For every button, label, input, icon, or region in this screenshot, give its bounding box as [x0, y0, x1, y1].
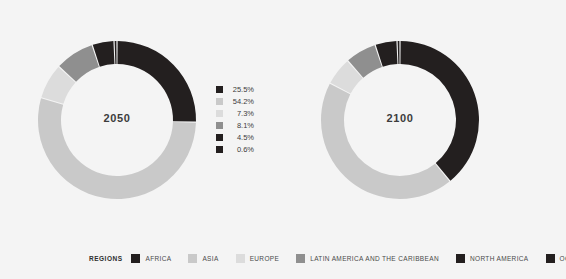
- swatch-oceania: [216, 146, 223, 153]
- donut-chart-2100: 2100 39.1% 43.6% 5.8% 6.4% 4.5%: [283, 0, 566, 240]
- value-oceania: 0.6%: [228, 144, 254, 155]
- charts-area: 2050 25.5% 54.2% 7.3% 8.1% 4.5%: [0, 0, 566, 240]
- region-legend-item-africa[interactable]: AFRICA: [131, 254, 171, 263]
- region-swatch-icon: [188, 254, 197, 263]
- donut-2050-year-label: 2050: [35, 112, 199, 124]
- region-swatch-icon: [236, 254, 245, 263]
- swatch-europe: [216, 110, 223, 117]
- region-legend-label: AFRICA: [145, 255, 171, 262]
- value-row: 7.3%: [216, 108, 254, 119]
- swatch-north-america: [216, 134, 223, 141]
- region-legend-item-latin-america-and-the-caribbean[interactable]: LATIN AMERICA AND THE CARIBBEAN: [296, 254, 439, 263]
- donut-segment: [115, 41, 117, 64]
- regions-legend-items: AFRICAASIAEUROPELATIN AMERICA AND THE CA…: [131, 254, 566, 263]
- region-swatch-icon: [456, 254, 465, 263]
- region-legend-label: EUROPE: [250, 255, 280, 262]
- swatch-africa: [216, 86, 223, 93]
- region-swatch-icon: [546, 254, 555, 263]
- regions-legend: REGIONS AFRICAASIAEUROPELATIN AMERICA AN…: [0, 246, 566, 270]
- donut-chart-2050: 2050 25.5% 54.2% 7.3% 8.1% 4.5%: [0, 0, 283, 240]
- donut-segment: [398, 41, 400, 64]
- region-legend-label: LATIN AMERICA AND THE CARIBBEAN: [310, 255, 439, 262]
- donut-2100-year-label: 2100: [318, 112, 482, 124]
- value-north-america: 4.5%: [228, 132, 254, 143]
- region-swatch-icon: [131, 254, 140, 263]
- region-legend-item-asia[interactable]: ASIA: [188, 254, 218, 263]
- region-legend-label: ASIA: [202, 255, 218, 262]
- value-asia: 54.2%: [228, 96, 254, 107]
- swatch-asia: [216, 98, 223, 105]
- value-europe: 7.3%: [228, 108, 254, 119]
- value-africa: 25.5%: [228, 84, 254, 95]
- value-legend-2050: 25.5% 54.2% 7.3% 8.1% 4.5% 0.6%: [216, 84, 254, 155]
- donut-segment: [117, 41, 196, 122]
- region-legend-label: NORTH AMERICA: [470, 255, 529, 262]
- value-row: 25.5%: [216, 84, 254, 95]
- donut-segment: [321, 84, 449, 199]
- region-legend-item-europe[interactable]: EUROPE: [236, 254, 280, 263]
- swatch-latin-america: [216, 122, 223, 129]
- region-legend-item-oceania[interactable]: OCEANIA: [546, 254, 566, 263]
- region-legend-item-north-america[interactable]: NORTH AMERICA: [456, 254, 529, 263]
- donut-segment: [400, 41, 479, 181]
- value-row: 8.1%: [216, 120, 254, 131]
- region-legend-label: OCEANIA: [560, 255, 566, 262]
- value-row: 54.2%: [216, 96, 254, 107]
- region-swatch-icon: [296, 254, 305, 263]
- value-row: 0.6%: [216, 144, 254, 155]
- value-row: 4.5%: [216, 132, 254, 143]
- value-latin-america: 8.1%: [228, 120, 254, 131]
- regions-legend-title: REGIONS: [89, 255, 122, 262]
